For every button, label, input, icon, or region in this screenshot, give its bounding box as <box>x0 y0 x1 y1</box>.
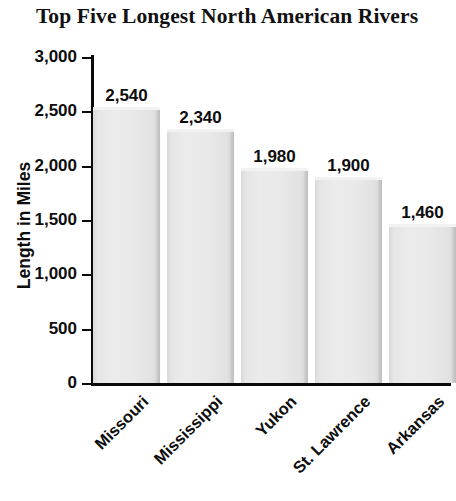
bar-value-label: 2,540 <box>105 86 148 106</box>
y-axis-tick-mark <box>82 220 91 222</box>
y-axis-tick-label: 500 <box>49 319 77 339</box>
x-axis-category-label: Mississippi <box>150 392 226 468</box>
y-axis-tick-label: 0 <box>68 373 77 393</box>
y-axis-tick-mark <box>82 166 91 168</box>
bar: 1,900 <box>315 177 382 383</box>
bar-value-label: 1,460 <box>401 203 444 223</box>
x-axis-category-label: Yukon <box>251 392 299 440</box>
y-axis-title: Length in Miles <box>14 136 35 316</box>
bar-value-label: 1,980 <box>253 147 296 167</box>
bar: 1,460 <box>389 224 456 383</box>
y-axis-tick-label: 2,000 <box>34 156 77 176</box>
bar-value-label: 2,340 <box>179 108 222 128</box>
x-axis-category-label: St. Lawrence <box>289 392 374 477</box>
y-axis-tick-label: 3,000 <box>34 47 77 67</box>
y-axis-tick-label: 1,500 <box>34 210 77 230</box>
x-axis-category-label: Arkansas <box>382 392 448 458</box>
y-axis-tick-mark <box>82 111 91 113</box>
bar: 2,540 <box>93 107 160 383</box>
bar: 2,340 <box>167 129 234 383</box>
chart-title: Top Five Longest North American Rivers <box>0 4 454 29</box>
y-axis-tick-mark <box>82 383 91 385</box>
y-axis-tick-label: 1,000 <box>34 264 77 284</box>
y-axis-tick-label: 2,500 <box>34 101 77 121</box>
x-axis-line <box>91 383 451 386</box>
bar: 1,980 <box>241 168 308 383</box>
y-axis-tick-mark <box>82 274 91 276</box>
x-axis-category-label: Missouri <box>91 392 152 453</box>
y-axis-tick-mark <box>82 57 91 59</box>
y-axis-tick-mark <box>82 329 91 331</box>
plot-area: 05001,0001,5002,0002,5003,000 2,5402,340… <box>91 57 450 383</box>
bar-value-label: 1,900 <box>327 156 370 176</box>
